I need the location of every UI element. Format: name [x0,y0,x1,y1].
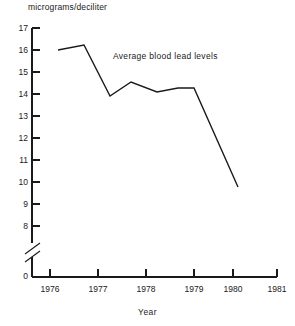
plot-area [0,0,295,326]
y-axis-ticks [32,28,40,226]
blood-lead-line-chart: micrograms/deciliter Average blood lead … [0,0,295,326]
data-line-average-blood-lead-levels [58,45,238,187]
x-axis-ticks [50,269,277,277]
